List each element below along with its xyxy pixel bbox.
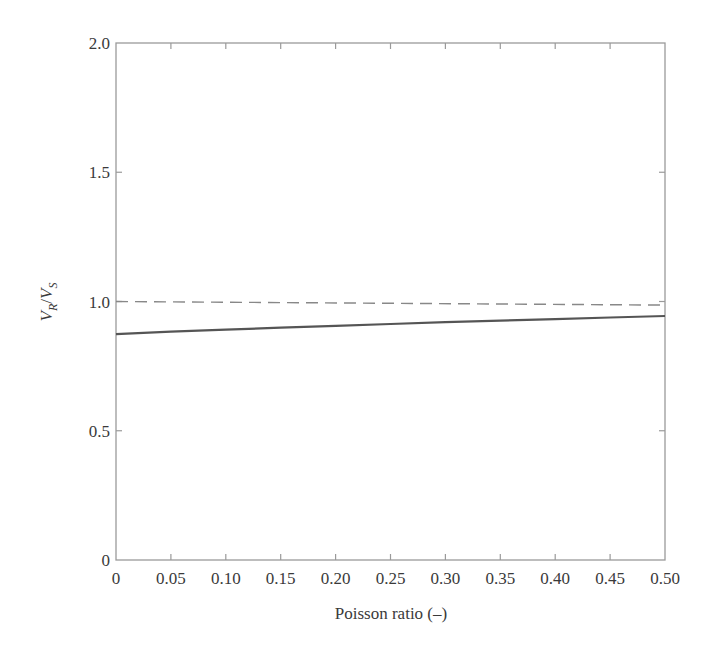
y-tick-label: 0: [102, 551, 111, 570]
y-tick-label: 0.5: [89, 422, 110, 441]
x-tick-label: 0.45: [595, 569, 625, 588]
y-title-sub2: S: [46, 283, 60, 289]
x-tick-label: 0.25: [376, 569, 406, 588]
y-tick-label: 1.5: [89, 163, 110, 182]
x-axis-title: Poisson ratio (–): [335, 604, 447, 623]
y-tick-label: 2.0: [89, 34, 110, 53]
series-layer: [116, 302, 665, 335]
dashed-reference-line: [116, 302, 665, 306]
x-tick-label: 0.35: [485, 569, 515, 588]
x-tick-label: 0.15: [266, 569, 296, 588]
solid-ratio-line: [116, 316, 665, 334]
x-tick-label: 0.50: [650, 569, 680, 588]
chart: 00.050.100.150.200.250.300.350.400.450.5…: [0, 0, 708, 661]
x-axis-ticks: 00.050.100.150.200.250.300.350.400.450.5…: [112, 43, 680, 588]
x-tick-label: 0: [112, 569, 121, 588]
y-axis-title: VR/VS: [37, 283, 60, 322]
x-tick-label: 0.05: [156, 569, 186, 588]
x-tick-label: 0.30: [431, 569, 461, 588]
x-tick-label: 0.10: [211, 569, 241, 588]
svg-text:VR/VS: VR/VS: [37, 283, 60, 322]
x-tick-label: 0.40: [540, 569, 570, 588]
x-tick-label: 0.20: [321, 569, 351, 588]
y-tick-label: 1.0: [89, 293, 110, 312]
